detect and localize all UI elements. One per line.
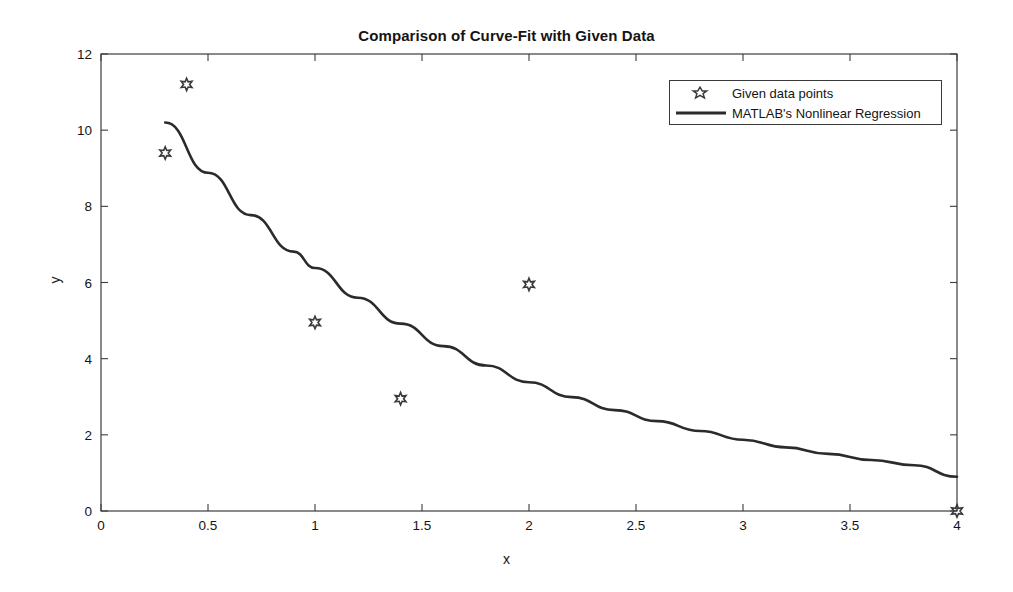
- legend-label-regression: MATLAB's Nonlinear Regression: [732, 107, 921, 120]
- x-tick-label: 2.5: [627, 518, 646, 533]
- y-tick-label: 4: [52, 351, 92, 366]
- data-point-marker: [181, 78, 192, 90]
- data-point-marker: [160, 147, 171, 159]
- y-axis-label: y: [47, 253, 63, 307]
- y-tick-label: 0: [52, 504, 92, 519]
- legend-label-data-points: Given data points: [732, 87, 833, 100]
- legend-marker-icon: [670, 83, 732, 103]
- y-tick-label: 8: [52, 199, 92, 214]
- y-tick-label: 12: [52, 47, 92, 62]
- data-point-marker: [395, 392, 406, 404]
- data-point-markers: [160, 78, 963, 517]
- y-tick-label: 10: [52, 123, 92, 138]
- data-point-marker: [310, 316, 321, 328]
- x-tick-label: 0.5: [199, 518, 218, 533]
- y-tick-label: 2: [52, 427, 92, 442]
- x-tick-label: 1: [311, 518, 319, 533]
- x-tick-label: 3.5: [841, 518, 860, 533]
- x-tick-label: 0: [97, 518, 105, 533]
- x-tick-label: 4: [953, 518, 961, 533]
- legend-entry-regression[interactable]: MATLAB's Nonlinear Regression: [670, 102, 941, 124]
- x-tick-label: 2: [525, 518, 533, 533]
- legend-line-icon: [670, 103, 732, 123]
- x-tick-label: 3: [739, 518, 747, 533]
- legend-entry-data-points[interactable]: Given data points: [670, 82, 941, 104]
- x-axis-label: x: [0, 551, 1013, 567]
- regression-curve: [165, 123, 957, 477]
- data-point-marker: [524, 278, 535, 290]
- figure-canvas: Comparison of Curve-Fit with Given Data …: [0, 0, 1013, 592]
- legend[interactable]: Given data points MATLAB's Nonlinear Reg…: [669, 80, 942, 125]
- x-tick-label: 1.5: [413, 518, 432, 533]
